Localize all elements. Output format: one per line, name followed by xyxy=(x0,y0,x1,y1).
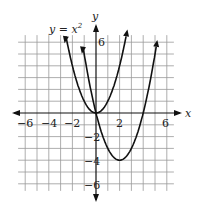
y-tick-neg4: −4 xyxy=(84,155,100,168)
x-axis-label: x xyxy=(185,107,192,120)
y-tick-neg2: −2 xyxy=(84,131,100,144)
x-tick-2: 2 xyxy=(116,117,123,130)
coordinate-plane: x y y = x2 −6 −4 −2 2 6 6 −2 −4 −6 xyxy=(0,0,199,212)
y-tick-neg6: −6 xyxy=(84,179,100,192)
y-axis-label: y xyxy=(91,10,99,23)
curve-label: y = x2 xyxy=(48,22,83,36)
x-tick-neg4: −4 xyxy=(41,117,57,130)
x-tick-neg6: −6 xyxy=(17,117,33,130)
x-tick-6: 6 xyxy=(162,117,169,130)
x-tick-neg2: −2 xyxy=(64,117,80,130)
y-tick-6: 6 xyxy=(98,36,105,49)
